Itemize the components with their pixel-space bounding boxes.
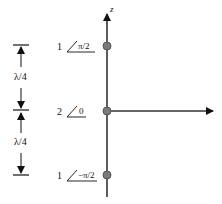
array-diagram [0, 0, 222, 204]
element-dot-middle [103, 107, 111, 115]
element-dot-top [103, 42, 111, 50]
spacing-label-lower: λ/4 [14, 137, 27, 147]
element-magnitude-bottom: 1 [57, 171, 62, 181]
element-phase-top: π/2 [78, 41, 90, 51]
element-phase-bottom: −π/2 [78, 170, 95, 180]
element-magnitude-middle: 2 [57, 107, 62, 117]
element-dot-bottom [103, 171, 111, 179]
element-magnitude-top: 1 [57, 42, 62, 52]
z-axis-label: z [110, 4, 114, 14]
element-phase-middle: 0 [79, 106, 84, 116]
spacing-label-upper: λ/4 [14, 72, 27, 82]
